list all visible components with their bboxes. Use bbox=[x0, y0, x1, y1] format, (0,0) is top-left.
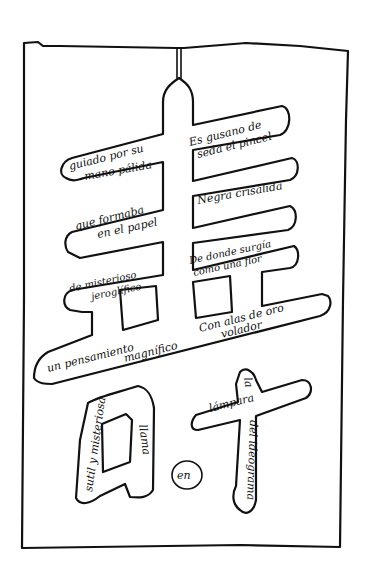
poem-line: lámpara bbox=[208, 391, 256, 415]
en-mark: en bbox=[172, 461, 202, 489]
poem-line: un pensamiento bbox=[46, 341, 136, 375]
poem-line: la bbox=[241, 376, 256, 388]
poem-line: Negra crisálida bbox=[195, 179, 283, 207]
calligram-drawing: guiado por su mano pálida Es gusano de s… bbox=[0, 0, 365, 583]
poem-word-en: en bbox=[177, 469, 191, 482]
upper-character-text: guiado por su mano pálida Es gusano de s… bbox=[46, 118, 286, 375]
lower-right-character-text: la lámpara del ideograma bbox=[208, 376, 260, 500]
poem-line: llama bbox=[136, 424, 153, 456]
poem-line: del ideograma bbox=[244, 420, 260, 501]
lower-left-character-text: sutil y misteriosa llama bbox=[82, 396, 153, 492]
